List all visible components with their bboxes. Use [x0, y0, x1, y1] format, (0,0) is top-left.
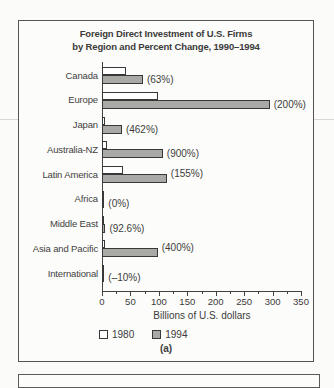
x-tick-label: 50	[115, 296, 145, 307]
percent-change-label: (400%)	[162, 241, 194, 254]
x-axis-title: Billions of U.S. dollars	[102, 310, 302, 321]
bar-1994-latin-america	[102, 174, 167, 183]
category-label: Asia and Pacific	[21, 243, 98, 255]
x-tick-label: 250	[229, 296, 259, 307]
percent-change-label: (462%)	[126, 123, 158, 136]
legend-swatch-1994	[152, 330, 161, 339]
x-tick-label: 100	[144, 296, 174, 307]
chart-title-line1: Foreign Direct Investment of U.S. Firms	[19, 28, 313, 41]
bar-1980-europe	[102, 92, 158, 100]
legend: 1980 1994	[99, 329, 188, 340]
x-tick-minor	[287, 291, 288, 294]
percent-change-label: (0%)	[108, 197, 129, 210]
figure-box: Foreign Direct Investment of U.S. Firms …	[18, 20, 314, 362]
category-label: Africa	[21, 193, 98, 205]
x-tick-minor	[145, 291, 146, 294]
bar-1980-japan	[102, 117, 105, 125]
bar-1994-africa	[102, 199, 104, 208]
bar-1980-asia-and-pacific	[102, 240, 105, 248]
panel-label: (a)	[19, 343, 313, 354]
bar-1980-canada	[102, 67, 126, 75]
bar-1980-africa	[102, 191, 104, 199]
legend-label-1994: 1994	[165, 329, 187, 340]
percent-change-label: (92.6%)	[109, 222, 144, 235]
legend-swatch-1980	[99, 330, 108, 339]
bar-1980-international	[102, 265, 104, 273]
percent-change-label: (900%)	[167, 147, 199, 160]
plot-area: (63%)(200%)(462%)(900%)(155%)(0%)(92.6%)…	[102, 62, 308, 291]
x-tick-label: 150	[172, 296, 202, 307]
percent-change-label: (200%)	[274, 98, 306, 111]
bar-1994-canada	[102, 75, 143, 84]
x-tick-minor	[202, 291, 203, 294]
category-label: Australia-NZ	[21, 144, 98, 156]
category-label: Latin America	[21, 169, 98, 181]
x-tick-minor	[173, 291, 174, 294]
percent-change-label: (–10%)	[108, 271, 140, 284]
bar-1994-asia-and-pacific	[102, 248, 158, 257]
category-label: Canada	[21, 70, 98, 82]
chart-title-line2: by Region and Percent Change, 1990–1994	[19, 41, 313, 54]
category-label: Europe	[21, 94, 98, 106]
bar-1994-japan	[102, 125, 122, 134]
bar-1980-middle-east	[102, 216, 104, 224]
bar-1980-latin-america	[102, 166, 123, 174]
category-label: Middle East	[21, 218, 98, 230]
legend-label-1980: 1980	[112, 329, 134, 340]
x-tick-label: 0	[87, 296, 117, 307]
bar-1994-international	[102, 273, 104, 282]
next-figure-box	[18, 374, 320, 388]
percent-change-label: (155%)	[171, 167, 203, 180]
x-tick-minor	[230, 291, 231, 294]
bar-1994-europe	[102, 100, 270, 109]
x-tick-minor	[258, 291, 259, 294]
x-tick-minor	[116, 291, 117, 294]
category-label: International	[21, 268, 98, 280]
x-tick-label: 350	[286, 296, 316, 307]
chart-title: Foreign Direct Investment of U.S. Firms …	[19, 28, 313, 53]
x-tick-label: 300	[258, 296, 288, 307]
percent-change-label: (63%)	[147, 73, 174, 86]
bar-1994-australia-nz	[102, 149, 163, 158]
x-tick-label: 200	[201, 296, 231, 307]
category-label: Japan	[21, 119, 98, 131]
bar-1994-middle-east	[102, 224, 105, 233]
bar-1980-australia-nz	[102, 141, 107, 149]
